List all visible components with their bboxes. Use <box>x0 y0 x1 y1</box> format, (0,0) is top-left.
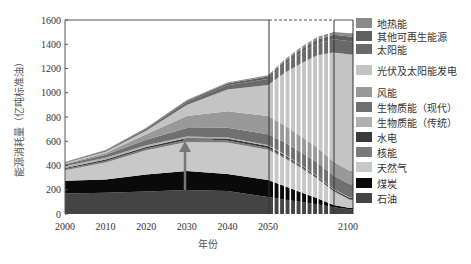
legend-label: 煤炭 <box>377 176 397 191</box>
legend-swatch <box>356 162 372 172</box>
x-tick-label: 2040 <box>217 221 237 232</box>
legend-label: 核能 <box>377 145 397 160</box>
y-axis-ticks: 02004006008001000120014001600 <box>41 15 68 220</box>
x-tick-label: 2030 <box>177 221 197 232</box>
legend-swatch <box>356 44 372 54</box>
stripe <box>284 20 286 214</box>
y-tick-label: 1600 <box>41 15 61 26</box>
stripe <box>323 20 325 214</box>
stripe <box>306 20 308 214</box>
stripe <box>301 20 303 214</box>
legend-swatch <box>356 132 372 142</box>
legend-swatch <box>356 178 372 188</box>
stripe <box>273 20 275 214</box>
stripe <box>317 20 319 214</box>
stripe <box>279 20 281 214</box>
legend-swatch <box>356 147 372 157</box>
legend-item: 其他可再生能源 <box>356 30 447 42</box>
legend-item: 水电 <box>356 131 397 143</box>
stripe <box>290 20 292 214</box>
legend-label: 太阳能 <box>377 42 407 57</box>
y-tick-label: 1400 <box>41 39 61 50</box>
legend-item: 光伏及太阳能发电 <box>356 64 457 76</box>
legend-swatch <box>356 65 372 75</box>
legend-item: 煤炭 <box>356 177 397 189</box>
legend-swatch <box>356 31 372 41</box>
legend-swatch <box>356 87 372 97</box>
legend-item: 地热能 <box>356 17 407 29</box>
x-tick-label: 2010 <box>96 221 116 232</box>
legend-item: 石油 <box>356 192 397 204</box>
legend-item: 生物质能（现代） <box>356 101 457 113</box>
legend-item: 生物质能（传统） <box>356 116 457 128</box>
y-tick-label: 400 <box>46 160 61 171</box>
legend-item: 核能 <box>356 146 397 158</box>
legend-item: 天然气 <box>356 161 407 173</box>
legend-label: 光伏及太阳能发电 <box>377 63 457 78</box>
y-tick-label: 800 <box>46 112 61 123</box>
x-axis-title: 年份 <box>198 238 218 250</box>
legend-label: 天然气 <box>377 160 407 175</box>
legend-label: 水电 <box>377 130 397 145</box>
x-tick-label: 2020 <box>136 221 156 232</box>
legend-label: 石油 <box>377 191 397 206</box>
x-tick-label: 2100 <box>338 221 358 232</box>
y-tick-label: 1200 <box>41 63 61 74</box>
stripe <box>328 20 330 214</box>
legend-swatch <box>356 193 372 203</box>
x-tick-label: 2050 <box>258 221 278 232</box>
x-axis-ticks: 2000201020202030204020502100 <box>55 221 358 232</box>
legend-label: 风能 <box>377 85 397 100</box>
stripe <box>312 20 314 214</box>
legend-item: 风能 <box>356 86 397 98</box>
stripe <box>295 20 297 214</box>
y-axis-title: 能源消耗量（亿吨标准油） <box>13 57 25 177</box>
x-tick-label: 2000 <box>55 221 75 232</box>
legend-label: 生物质能（传统） <box>377 115 457 130</box>
y-tick-label: 1000 <box>41 87 61 98</box>
legend-swatch <box>356 102 372 112</box>
y-tick-label: 200 <box>46 184 61 195</box>
legend-item: 太阳能 <box>356 43 407 55</box>
legend-swatch <box>356 117 372 127</box>
legend-label: 生物质能（现代） <box>377 100 457 115</box>
y-tick-label: 600 <box>46 136 61 147</box>
legend-swatch <box>356 18 372 28</box>
y-tick-label: 0 <box>56 209 61 220</box>
area-layers <box>65 32 353 214</box>
